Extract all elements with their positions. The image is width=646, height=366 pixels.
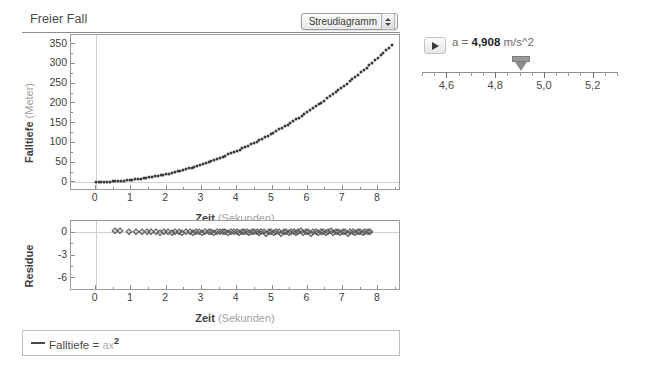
- x-minor-tick-mark: [289, 287, 290, 289]
- x-minor-tick-mark: [254, 287, 255, 289]
- data-point: [385, 49, 388, 52]
- slider-tick-label: 4,8: [487, 79, 502, 91]
- x-tick-mark: [272, 285, 273, 289]
- x-tick-mark: [95, 185, 96, 189]
- slider-minor-tick: [471, 72, 472, 76]
- plot-type-dropdown[interactable]: Streudiagramm: [301, 13, 398, 30]
- x-tick-mark: [95, 285, 96, 289]
- y-tick-label: 250: [49, 76, 67, 88]
- x-tick-label: 4: [233, 191, 239, 203]
- x-minor-tick-mark: [324, 287, 325, 289]
- y-minor-tick-mark: [71, 132, 73, 133]
- legend-box[interactable]: Falltiefe = ax2: [22, 330, 400, 356]
- x-tick-label: 5: [268, 191, 274, 203]
- x-tick-label: 8: [374, 191, 380, 203]
- slider-major-tick: [495, 72, 496, 78]
- x-tick-mark: [201, 185, 202, 189]
- main-plot-area[interactable]: [70, 34, 400, 190]
- y-minor-tick-mark: [71, 181, 73, 182]
- y-minor-tick-mark: [71, 142, 73, 143]
- main-y-axis-unit: (Meter): [23, 83, 35, 118]
- x-tick-label: 3: [198, 191, 204, 203]
- graph-panel: Freier Fall Streudiagramm Falltiefe (Met…: [22, 12, 400, 324]
- slider-minor-tick: [483, 72, 484, 76]
- y-minor-tick-mark: [71, 255, 73, 256]
- residual-x-axis-label: Zeit (Sekunden): [70, 312, 400, 324]
- parameter-unit: m/s^2: [504, 36, 534, 48]
- slider-minor-tick: [532, 72, 533, 76]
- slider-minor-tick: [580, 72, 581, 76]
- x-tick-label: 3: [198, 291, 204, 303]
- y-tick-label: 0: [61, 175, 67, 187]
- residual-x-axis-name: Zeit: [195, 312, 215, 324]
- main-x-tick-labels: 012345678: [70, 190, 400, 212]
- residual-x-tick-labels: 012345678: [70, 290, 400, 312]
- main-y-axis-label: Falltiefe (Meter): [22, 34, 36, 212]
- x-minor-tick-mark: [324, 187, 325, 189]
- slider-major-tick: [544, 72, 545, 78]
- y-minor-tick-mark: [71, 172, 73, 173]
- x-tick-mark: [236, 285, 237, 289]
- y-minor-tick-mark: [71, 232, 73, 233]
- x-tick-mark: [236, 185, 237, 189]
- vertical-zero-line: [96, 35, 97, 189]
- slider-minor-tick: [520, 72, 521, 76]
- parameter-value[interactable]: 4,908: [472, 36, 501, 48]
- x-minor-tick-mark: [395, 187, 396, 189]
- data-point: [117, 227, 125, 235]
- x-minor-tick-mark: [360, 287, 361, 289]
- slider-tick-label: 5,0: [536, 79, 551, 91]
- slider-minor-tick: [422, 72, 423, 76]
- residual-x-axis-unit: (Sekunden): [218, 312, 275, 324]
- page-title: Freier Fall: [30, 12, 87, 26]
- x-tick-label: 6: [303, 191, 309, 203]
- slider-minor-tick: [556, 72, 557, 76]
- y-tick-label: -6: [58, 271, 67, 283]
- residual-plot-area[interactable]: [70, 220, 400, 290]
- x-minor-tick-mark: [113, 187, 114, 189]
- y-minor-tick-mark: [71, 266, 73, 267]
- slider-minor-tick: [605, 72, 606, 76]
- parameter-slider-panel: a = 4,908 m/s^2 4,64,85,05,2: [422, 34, 622, 96]
- data-point: [365, 66, 368, 69]
- y-minor-tick-mark: [71, 63, 73, 64]
- residual-y-tick-labels: 0-3-6: [36, 220, 70, 312]
- data-point: [390, 44, 393, 47]
- plot-type-value: Streudiagramm: [309, 16, 377, 27]
- x-tick-mark: [342, 285, 343, 289]
- legend-exponent: 2: [114, 336, 119, 346]
- parameter-readout: a = 4,908 m/s^2: [452, 36, 534, 48]
- slider-minor-tick: [568, 72, 569, 76]
- data-point: [388, 46, 391, 49]
- legend-expression: Falltiefe = ax2: [49, 336, 119, 351]
- y-minor-tick-mark: [71, 162, 73, 163]
- main-y-axis-name: Falltiefe: [23, 121, 35, 163]
- play-button[interactable]: [424, 37, 446, 54]
- y-minor-tick-mark: [71, 53, 73, 54]
- x-tick-mark: [377, 285, 378, 289]
- slider-tick-label: 4,6: [439, 79, 454, 91]
- y-minor-tick-mark: [71, 277, 73, 278]
- slider-minor-tick: [617, 72, 618, 76]
- x-minor-tick-mark: [254, 187, 255, 189]
- x-tick-label: 1: [127, 291, 133, 303]
- data-point: [376, 56, 379, 59]
- slider-tick-label: 5,2: [585, 79, 600, 91]
- x-tick-label: 7: [339, 291, 345, 303]
- slider-thumb[interactable]: [512, 56, 530, 72]
- x-minor-tick-mark: [148, 287, 149, 289]
- x-minor-tick-mark: [183, 187, 184, 189]
- data-point: [382, 51, 385, 54]
- x-tick-mark: [130, 285, 131, 289]
- x-tick-label: 2: [162, 291, 168, 303]
- chevron-up-down-icon[interactable]: [381, 13, 395, 30]
- slider-minor-tick: [507, 72, 508, 76]
- parameter-name: a: [452, 36, 458, 48]
- x-minor-tick-mark: [289, 187, 290, 189]
- slider-major-tick: [593, 72, 594, 78]
- legend-line-swatch: [31, 342, 45, 344]
- main-y-tick-labels: 050100150200250300350: [36, 34, 70, 212]
- y-tick-label: -3: [58, 248, 67, 260]
- data-point: [368, 64, 371, 67]
- x-tick-mark: [272, 185, 273, 189]
